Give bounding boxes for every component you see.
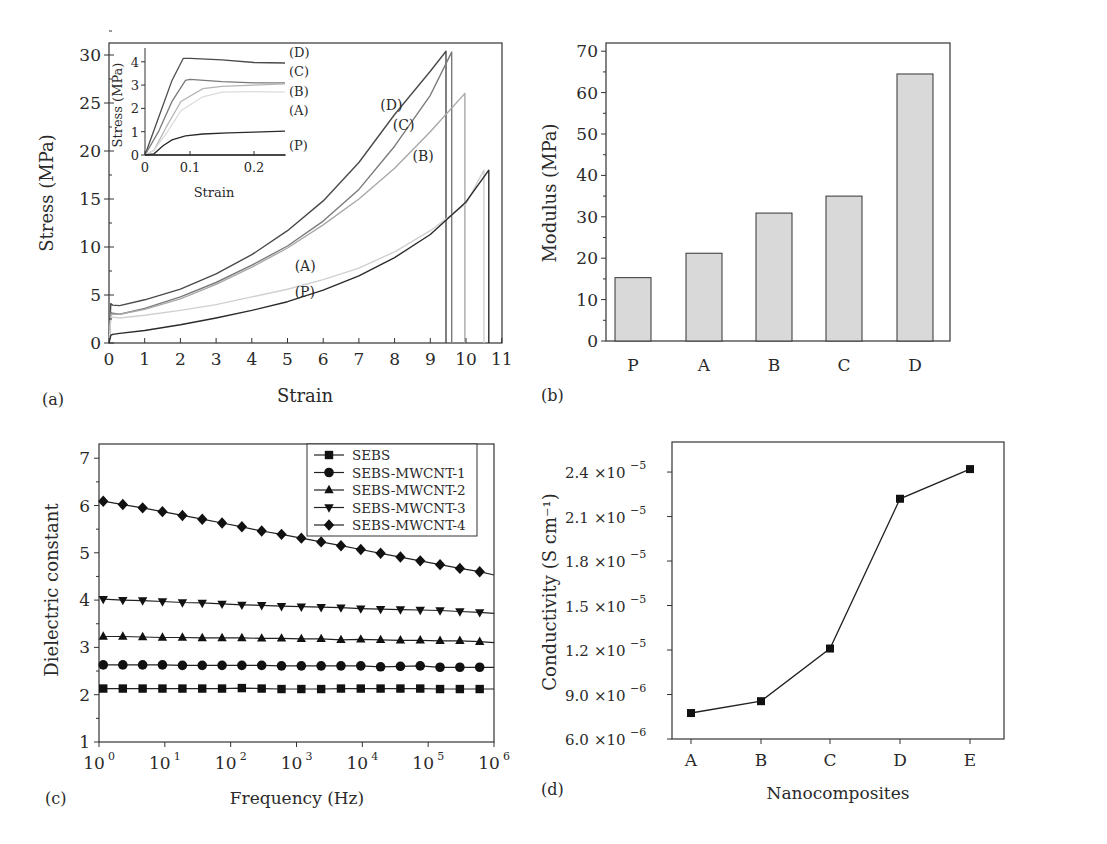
square-marker xyxy=(376,684,384,692)
triangle-up-marker xyxy=(158,632,167,640)
legend-label: SEBS-MWCNT-3 xyxy=(352,500,466,516)
diamond-marker xyxy=(217,517,227,528)
inset-a: 00.10.201234StrainStress (MPa)(D)(C)(B)(… xyxy=(110,45,310,200)
triangle-down-marker xyxy=(475,609,484,617)
y-tick-exponent: −5 xyxy=(630,548,646,561)
plot-frame-d xyxy=(672,442,1004,739)
triangle-up-marker xyxy=(316,634,325,642)
panel-a-stress-strain: 01234567891011051015202530StrainStress (… xyxy=(36,31,513,409)
curve-annotation: (B) xyxy=(412,148,433,164)
circle-marker xyxy=(217,661,227,671)
panel-label-b: (b) xyxy=(541,386,564,405)
circle-marker xyxy=(277,661,287,671)
circle-marker xyxy=(396,662,406,672)
triangle-up-marker xyxy=(178,632,187,640)
triangle-up-marker xyxy=(356,634,365,642)
inset-curve-label: (P) xyxy=(289,138,308,153)
x-tick-label: 0 xyxy=(104,349,115,369)
inset-curve-label: (A) xyxy=(289,103,309,118)
x-axis-label-c: Frequency (Hz) xyxy=(230,788,364,808)
triangle-down-marker xyxy=(316,604,325,612)
circle-marker xyxy=(316,661,326,671)
y-tick-label: 6 xyxy=(79,496,90,516)
triangle-down-marker xyxy=(158,598,167,606)
triangle-up-marker xyxy=(118,631,127,639)
series-sebs-mwcnt-1 xyxy=(98,660,494,672)
triangle-up-marker xyxy=(435,636,444,644)
triangle-down-marker xyxy=(356,605,365,613)
curve-annotation: (D) xyxy=(380,97,402,113)
triangle-down-marker xyxy=(138,597,147,605)
y-tick-label: 60 xyxy=(576,83,598,103)
diamond-marker xyxy=(137,502,147,513)
x-tick-label: 10 xyxy=(455,349,477,369)
x-tick-label: 11 xyxy=(491,349,513,369)
y-tick-label: 0 xyxy=(587,331,598,351)
square-marker xyxy=(317,685,325,693)
y-tick-mantissa: 2.1 xyxy=(565,509,589,527)
triangle-up-marker xyxy=(277,633,286,641)
y-tick-exponent: −5 xyxy=(630,504,646,517)
x-tick-exponent: 3 xyxy=(306,750,313,763)
square-marker xyxy=(277,685,285,693)
inset-y-tick-label: 0 xyxy=(131,148,139,163)
inset-x-tick-label: 0.1 xyxy=(180,160,201,175)
y-tick-label: 20 xyxy=(79,141,101,161)
y-tick-mantissa: 1.2 xyxy=(565,642,589,660)
y-tick-mantissa: 1.8 xyxy=(565,553,589,571)
y-tick-times: ×10 xyxy=(594,598,626,616)
x-tick-label: 6 xyxy=(318,349,329,369)
y-tick-label: 1 xyxy=(79,732,90,752)
diamond-marker xyxy=(316,536,326,547)
y-axis-label-d: Conductivity (S cm⁻¹) xyxy=(539,493,560,690)
diamond-marker xyxy=(296,532,306,543)
diamond-marker xyxy=(435,559,445,570)
legend-label: SEBS xyxy=(352,447,390,463)
x-tick-label: 5 xyxy=(282,349,293,369)
diamond-marker xyxy=(197,514,207,525)
triangle-down-marker xyxy=(237,602,246,610)
triangle-up-marker xyxy=(237,633,246,641)
triangle-down-marker xyxy=(99,596,108,604)
curve-annotation: (C) xyxy=(393,117,415,133)
x-tick-label: 9 xyxy=(425,349,436,369)
x-tick-exponent: 1 xyxy=(174,750,181,763)
inset-y-axis-label: Stress (MPa) xyxy=(110,63,125,148)
x-tick-label: 4 xyxy=(246,349,257,369)
diamond-marker xyxy=(256,525,266,536)
y-tick-label: 0 xyxy=(90,333,101,353)
diamond-marker xyxy=(276,529,286,540)
inset-curve-label: (B) xyxy=(289,84,309,99)
inset-x-axis-label: Strain xyxy=(194,185,235,200)
y-tick-label: 2 xyxy=(79,685,90,705)
triangle-down-marker xyxy=(416,607,425,615)
circle-marker xyxy=(178,661,188,671)
circle-marker xyxy=(158,660,168,670)
square-marker xyxy=(456,685,464,693)
bar-a xyxy=(686,253,722,341)
panel-c-dielectric: 1001011021031041051061234567Frequency (H… xyxy=(41,444,510,808)
square-marker xyxy=(325,451,333,459)
x-tick-exponent: 0 xyxy=(108,750,115,763)
triangle-down-marker xyxy=(336,604,345,612)
y-tick-label: 70 xyxy=(576,41,598,61)
data-point-c xyxy=(826,645,834,653)
inset-curve-label: (C) xyxy=(289,64,309,79)
triangle-up-marker xyxy=(99,631,108,639)
square-marker xyxy=(119,684,127,692)
x-tick-label: 2 xyxy=(175,349,186,369)
triangle-up-marker xyxy=(416,635,425,643)
y-tick-times: ×10 xyxy=(594,553,626,571)
y-tick-label: 5 xyxy=(90,285,101,305)
y-tick-exponent: −5 xyxy=(630,459,646,472)
diamond-marker xyxy=(474,566,484,577)
y-axis-label-a: Stress (MPa) xyxy=(36,134,57,252)
triangle-up-marker xyxy=(138,632,147,640)
series-sebs-mwcnt-2 xyxy=(99,631,494,645)
y-tick-exponent: −6 xyxy=(630,726,646,739)
circle-marker xyxy=(118,660,128,670)
triangle-down-marker xyxy=(455,608,464,616)
x-tick-label: 10 xyxy=(83,753,105,773)
y-tick-times: ×10 xyxy=(594,687,626,705)
square-marker xyxy=(198,684,206,692)
